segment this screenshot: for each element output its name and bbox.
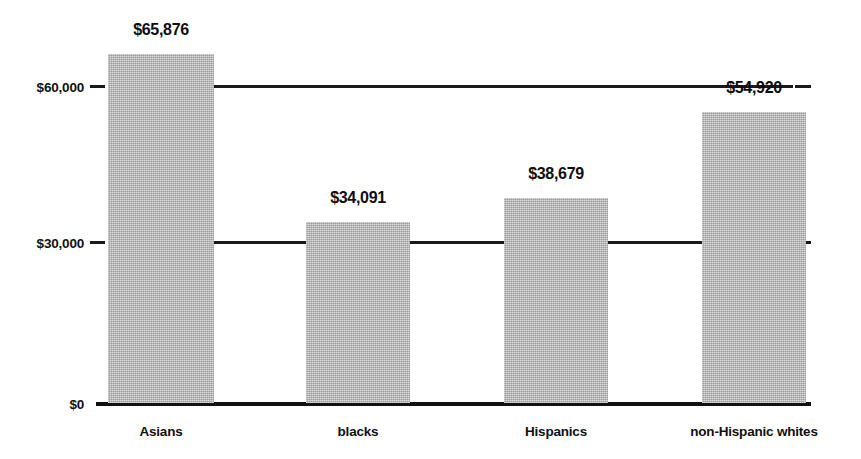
category-label-blacks: blacks: [288, 424, 428, 439]
ytick-mark-30000: [90, 241, 105, 244]
bar-asians[interactable]: [108, 54, 214, 403]
ytick-label-30000: $30,000: [0, 236, 84, 251]
ytick-mark-60000: [90, 85, 105, 88]
category-label-hispanics: Hispanics: [486, 424, 626, 439]
ytick-label-0: $0: [0, 397, 84, 412]
bar-chart: $60,000 $30,000 $0 $65,876 $34,091 $38,6…: [0, 0, 861, 459]
value-label-hispanics: $38,679: [496, 165, 616, 183]
category-label-non-hispanic-whites: non-Hispanic whites: [684, 424, 824, 439]
value-label-asians: $65,876: [101, 21, 221, 39]
plot-area: $60,000 $30,000 $0 $65,876 $34,091 $38,6…: [0, 0, 861, 459]
bar-hispanics[interactable]: [504, 198, 608, 403]
value-label-blacks: $34,091: [298, 189, 418, 207]
value-label-non-hispanic-whites: $54,920: [694, 79, 814, 97]
bar-non-hispanic-whites[interactable]: [702, 112, 806, 403]
category-label-asians: Asians: [91, 424, 231, 439]
bar-blacks[interactable]: [306, 222, 410, 403]
ytick-label-60000: $60,000: [0, 80, 84, 95]
